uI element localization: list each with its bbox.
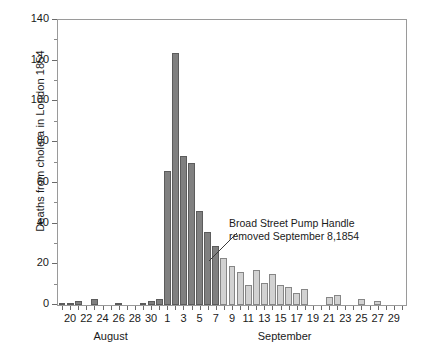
bar: [115, 303, 122, 305]
tick-mark: [54, 202, 57, 203]
tick-mark: [313, 306, 314, 310]
bar: [261, 283, 268, 305]
tick-mark: [159, 306, 160, 310]
y-tick-label: 100: [31, 93, 49, 105]
tick-mark: [167, 306, 168, 310]
tick-mark: [127, 306, 128, 310]
tick-mark: [52, 223, 57, 224]
tick-mark: [52, 141, 57, 142]
tick-mark: [224, 306, 225, 310]
tick-mark: [216, 306, 217, 310]
bar: [196, 211, 203, 305]
tick-mark: [143, 306, 144, 310]
annotation-line-1: Broad Street Pump Handle: [229, 217, 359, 230]
bar: [301, 289, 308, 305]
y-tick-label: 40: [37, 216, 49, 228]
x-tick-label: 29: [380, 312, 408, 324]
tick-mark: [329, 306, 330, 310]
bar: [59, 303, 66, 305]
tick-mark: [256, 306, 257, 310]
y-tick-label: 60: [37, 175, 49, 187]
bar: [148, 301, 155, 305]
tick-mark: [208, 306, 209, 310]
bar: [91, 299, 98, 305]
bar: [180, 156, 187, 305]
bar: [229, 266, 236, 305]
bar: [277, 285, 284, 305]
y-tick-label: 0: [43, 297, 49, 309]
bar: [172, 53, 179, 305]
tick-mark: [175, 306, 176, 310]
tick-mark: [151, 306, 152, 310]
tick-mark: [135, 306, 136, 310]
tick-mark: [78, 306, 79, 310]
tick-mark: [386, 306, 387, 310]
bar: [334, 295, 341, 305]
tick-mark: [52, 304, 57, 305]
tick-mark: [62, 306, 63, 310]
cholera-bar-chart: Deaths from cholera in London 1854 02040…: [0, 0, 424, 355]
tick-mark: [54, 80, 57, 81]
tick-mark: [321, 306, 322, 310]
bar: [237, 272, 244, 305]
bar: [285, 287, 292, 305]
tick-mark: [54, 39, 57, 40]
tick-mark: [378, 306, 379, 310]
tick-mark: [297, 306, 298, 310]
y-tick-label: 120: [31, 53, 49, 65]
bar: [374, 301, 381, 305]
bar: [156, 299, 163, 305]
annotation-line-2: removed September 8,1854: [229, 230, 359, 243]
tick-mark: [52, 60, 57, 61]
tick-mark: [119, 306, 120, 310]
tick-mark: [52, 100, 57, 101]
y-tick-label: 140: [31, 12, 49, 24]
bar: [188, 163, 195, 306]
y-tick-label: 80: [37, 134, 49, 146]
pump-handle-annotation: Broad Street Pump Handle removed Septemb…: [229, 217, 359, 243]
annotation-leader-line: [208, 232, 238, 262]
tick-mark: [52, 182, 57, 183]
bar: [220, 258, 227, 305]
tick-mark: [94, 306, 95, 310]
bar: [75, 301, 82, 305]
bar: [67, 303, 74, 305]
tick-mark: [232, 306, 233, 310]
tick-mark: [54, 162, 57, 163]
y-tick-label: 20: [37, 256, 49, 268]
tick-mark: [289, 306, 290, 310]
bar-series: [58, 20, 406, 305]
tick-mark: [52, 263, 57, 264]
bar: [164, 171, 171, 305]
bar: [326, 297, 333, 305]
bar: [253, 270, 260, 305]
tick-mark: [54, 243, 57, 244]
tick-mark: [272, 306, 273, 310]
tick-mark: [70, 306, 71, 310]
tick-mark: [305, 306, 306, 310]
tick-mark: [361, 306, 362, 310]
tick-mark: [264, 306, 265, 310]
tick-mark: [394, 306, 395, 310]
tick-mark: [86, 306, 87, 310]
tick-mark: [248, 306, 249, 310]
bar: [358, 299, 365, 305]
tick-mark: [240, 306, 241, 310]
tick-mark: [192, 306, 193, 310]
tick-mark: [402, 306, 403, 310]
bar: [140, 303, 147, 305]
tick-mark: [111, 306, 112, 310]
bar: [293, 293, 300, 305]
tick-mark: [183, 306, 184, 310]
tick-mark: [103, 306, 104, 310]
tick-mark: [370, 306, 371, 310]
x-axis-ticks: 2022242628301357911131517192123252729: [58, 306, 406, 332]
tick-mark: [54, 284, 57, 285]
x-axis-month-september: September: [235, 330, 335, 342]
tick-mark: [353, 306, 354, 310]
tick-mark: [54, 121, 57, 122]
bar: [269, 274, 276, 305]
tick-mark: [281, 306, 282, 310]
x-axis-month-august: August: [71, 330, 151, 342]
tick-mark: [337, 306, 338, 310]
